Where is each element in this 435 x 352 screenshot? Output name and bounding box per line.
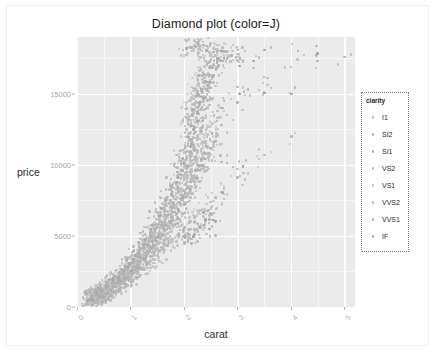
scatter-point xyxy=(189,152,191,154)
scatter-point xyxy=(154,266,156,268)
scatter-point xyxy=(185,107,187,109)
scatter-point xyxy=(203,170,205,172)
scatter-point xyxy=(132,245,134,247)
scatter-point xyxy=(184,216,186,218)
scatter-point xyxy=(223,188,225,190)
scatter-point xyxy=(211,52,213,54)
scatter-point xyxy=(266,77,268,79)
scatter-point xyxy=(214,220,216,222)
legend-item[interactable]: SI1 xyxy=(362,143,408,160)
scatter-point xyxy=(169,184,171,186)
scatter-point xyxy=(105,293,107,295)
gridline-major-horizontal xyxy=(77,94,355,95)
x-axis-title: carat xyxy=(77,328,355,340)
scatter-point xyxy=(112,276,114,278)
scatter-point xyxy=(149,267,151,269)
scatter-point xyxy=(203,65,205,67)
scatter-point xyxy=(191,77,193,79)
gridline-major-vertical xyxy=(291,37,292,307)
scatter-point xyxy=(235,56,237,58)
scatter-point xyxy=(154,232,156,234)
scatter-point xyxy=(183,101,185,103)
legend-item[interactable]: VS2 xyxy=(362,160,408,177)
scatter-point xyxy=(217,104,219,106)
scatter-point xyxy=(135,283,137,285)
legend-item[interactable]: IF xyxy=(362,228,408,245)
legend-item[interactable]: VVS1 xyxy=(362,211,408,228)
y-axis-tick-label: 10000 xyxy=(50,160,71,169)
scatter-point xyxy=(134,265,136,267)
scatter-point xyxy=(189,220,191,222)
scatter-point xyxy=(190,165,192,167)
scatter-point xyxy=(176,216,178,218)
scatter-point xyxy=(196,228,198,230)
scatter-point xyxy=(142,267,144,269)
scatter-point xyxy=(187,83,189,85)
scatter-point xyxy=(238,160,240,162)
scatter-point xyxy=(199,181,201,183)
scatter-point xyxy=(138,241,140,243)
scatter-point xyxy=(86,293,88,295)
scatter-point xyxy=(197,123,199,125)
scatter-point xyxy=(270,87,272,89)
scatter-point xyxy=(198,74,200,76)
scatter-point xyxy=(206,63,208,65)
legend-item[interactable]: SI2 xyxy=(362,126,408,143)
scatter-point xyxy=(202,119,204,121)
legend-key-point-icon xyxy=(366,230,380,244)
scatter-point xyxy=(216,61,218,63)
x-axis-tick-labels: 012345 xyxy=(77,311,355,329)
scatter-point xyxy=(226,51,228,53)
scatter-point xyxy=(136,271,138,273)
scatter-point xyxy=(125,290,127,292)
scatter-point xyxy=(256,155,258,157)
scatter-point xyxy=(221,107,223,109)
legend-key-dot xyxy=(372,184,375,187)
scatter-point xyxy=(232,44,234,46)
scatter-point xyxy=(219,154,221,156)
scatter-point xyxy=(219,116,221,118)
scatter-point xyxy=(90,286,92,288)
scatter-point xyxy=(151,224,153,226)
legend-item[interactable]: VVS2 xyxy=(362,194,408,211)
scatter-point xyxy=(107,284,109,286)
legend-item[interactable]: VS1 xyxy=(362,177,408,194)
scatter-point xyxy=(211,214,213,216)
x-axis-tick-label: 3 xyxy=(231,313,246,328)
scatter-point xyxy=(192,148,194,150)
scatter-point xyxy=(144,273,146,275)
scatter-point xyxy=(203,151,205,153)
scatter-point xyxy=(186,232,188,234)
scatter-point xyxy=(225,43,227,45)
scatter-point xyxy=(199,237,201,239)
scatter-point xyxy=(180,224,182,226)
scatter-point xyxy=(160,246,162,248)
legend-item[interactable]: I1 xyxy=(362,109,408,126)
scatter-point xyxy=(110,288,112,290)
scatter-point xyxy=(184,236,186,238)
scatter-point xyxy=(196,152,198,154)
page-title: Diamond plot (color=J) xyxy=(77,17,355,31)
scatter-point xyxy=(241,109,243,111)
scatter-point xyxy=(173,149,175,151)
legend-key-dot xyxy=(372,133,375,136)
scatter-point xyxy=(182,118,184,120)
scatter-point xyxy=(211,159,213,161)
scatter-point xyxy=(208,218,210,220)
scatter-point xyxy=(123,269,125,271)
scatter-point xyxy=(120,292,122,294)
scatter-point xyxy=(220,161,222,163)
legend-item-label: SI2 xyxy=(382,131,393,138)
scatter-point xyxy=(116,275,118,277)
scatter-point xyxy=(130,281,132,283)
scatter-point xyxy=(187,165,189,167)
scatter-point xyxy=(263,154,265,156)
legend-key-dot xyxy=(372,218,375,221)
scatter-point xyxy=(102,295,104,297)
plot-panel xyxy=(77,37,355,307)
scatter-point xyxy=(242,86,244,88)
scatter-point xyxy=(208,228,210,230)
scatter-point xyxy=(316,60,318,62)
scatter-point xyxy=(190,125,192,127)
legend[interactable]: clarity I1SI2SI1VS2VS1VVS2VVS1IF xyxy=(361,92,409,252)
